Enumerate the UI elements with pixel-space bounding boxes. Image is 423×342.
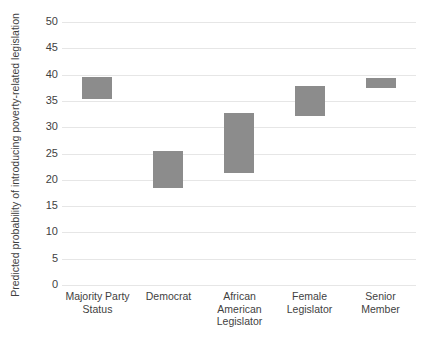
y-axis-tick-label: 30 — [18, 121, 58, 132]
x-axis-tick-label: Democrat — [133, 290, 204, 303]
y-axis-tick-label: 45 — [18, 42, 58, 53]
gridline — [62, 206, 416, 207]
x-axis-label-line: Member — [345, 303, 416, 316]
gridline — [62, 22, 416, 23]
y-axis-tick-label: 40 — [18, 69, 58, 80]
y-axis-tick-label: 15 — [18, 200, 58, 211]
gridline — [62, 232, 416, 233]
x-axis-label-line: Status — [62, 303, 133, 316]
x-axis-tick-label: Majority PartyStatus — [62, 290, 133, 315]
range-bar — [366, 78, 396, 88]
gridline — [62, 48, 416, 49]
gridline — [62, 101, 416, 102]
x-axis-tick-label: FemaleLegislator — [274, 290, 345, 315]
x-axis-label-line: Legislator — [274, 303, 345, 316]
x-axis-tick-label: SeniorMember — [345, 290, 416, 315]
y-axis-tick-label: 0 — [18, 279, 58, 290]
x-axis-tick-label: AfricanAmericanLegislator — [204, 290, 275, 328]
x-axis-label-line: Senior — [345, 290, 416, 303]
x-axis-label-line: Legislator — [204, 315, 275, 328]
gridline — [62, 75, 416, 76]
y-axis-tick-label: 10 — [18, 226, 58, 237]
y-axis-tick-labels: 50454035302520151050 — [14, 22, 58, 285]
gridline — [62, 259, 416, 260]
y-axis-tick-label: 25 — [18, 148, 58, 159]
x-axis-label-line: Majority Party — [62, 290, 133, 303]
x-axis-label-line: African — [204, 290, 275, 303]
y-axis-tick-label: 5 — [18, 253, 58, 264]
range-bar — [153, 151, 183, 188]
gridline — [62, 180, 416, 181]
range-bar — [295, 86, 325, 116]
x-axis-label-line: Democrat — [133, 290, 204, 303]
y-axis-tick-label: 20 — [18, 174, 58, 185]
gridline — [62, 285, 416, 286]
y-axis-tick-label: 50 — [18, 16, 58, 27]
range-bar — [82, 77, 112, 99]
x-axis-tick-labels: Majority PartyStatusDemocratAfricanAmeri… — [62, 290, 416, 338]
plot-area — [62, 22, 416, 285]
chart-container: Predicted probability of introducing pov… — [0, 0, 423, 342]
x-axis-label-line: Female — [274, 290, 345, 303]
y-axis-tick-label: 35 — [18, 95, 58, 106]
range-bar — [224, 113, 254, 173]
x-axis-label-line: American — [204, 303, 275, 316]
